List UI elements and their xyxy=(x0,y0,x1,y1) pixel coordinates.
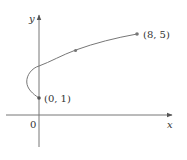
end-point-marker xyxy=(135,32,139,36)
y-axis-label: y xyxy=(28,13,35,24)
origin-label: 0 xyxy=(30,119,36,130)
intermediate-point-marker xyxy=(74,49,77,52)
parametric-curve xyxy=(27,34,137,98)
end-point-label: (8, 5) xyxy=(143,29,170,40)
x-axis-label: x xyxy=(167,119,173,130)
diagram-canvas: y x 0 (0, 1) (8, 5) xyxy=(0,0,187,160)
start-point-marker xyxy=(37,96,41,100)
start-point-label: (0, 1) xyxy=(44,93,71,104)
